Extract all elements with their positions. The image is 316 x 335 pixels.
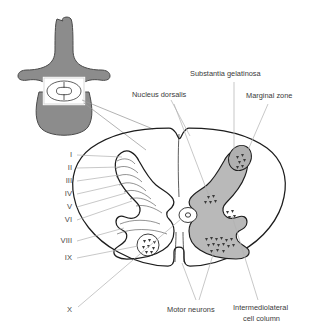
label-lamina-I: I <box>70 150 72 159</box>
spinal-cord-highlight-box <box>44 78 84 104</box>
label-lamina-V: V <box>67 202 73 211</box>
label-substantia-gelatinosa: Substantia gelatinosa <box>190 69 262 78</box>
cord-cross-section <box>73 128 286 266</box>
gray-matter-left-outline <box>114 151 174 259</box>
label-marginal-zone: Marginal zone <box>246 91 292 100</box>
magnification-leader <box>84 103 146 150</box>
laminae-division-lines <box>115 159 167 234</box>
label-lamina-IV: IV <box>65 189 73 198</box>
label-motor-neurons: Motor neurons <box>167 305 215 314</box>
label-intermediolateral-line2: cell column <box>243 314 280 323</box>
central-canal-lumen <box>185 213 190 217</box>
magnification-leader-2 <box>82 100 153 129</box>
label-nucleus-dorsalis: Nucleus dorsalis <box>132 90 187 99</box>
ventral-median-fissure <box>175 232 176 262</box>
label-lamina-X: X <box>67 305 72 314</box>
dorsal-median-septum <box>178 134 179 197</box>
label-intermediolateral-line1: Intermediolateral <box>233 303 288 312</box>
label-lamina-VI: VI <box>65 215 72 224</box>
label-lamina-II: II <box>68 163 72 172</box>
label-lamina-VIII: VIII <box>61 236 72 245</box>
label-leader-lines <box>77 82 268 307</box>
label-lamina-IX: IX <box>65 253 72 262</box>
label-lamina-III: III <box>66 176 72 185</box>
vertebra-inset <box>18 17 153 150</box>
spinal-cord-diagram: Nucleus dorsalis Substantia gelatinosa M… <box>0 0 316 335</box>
